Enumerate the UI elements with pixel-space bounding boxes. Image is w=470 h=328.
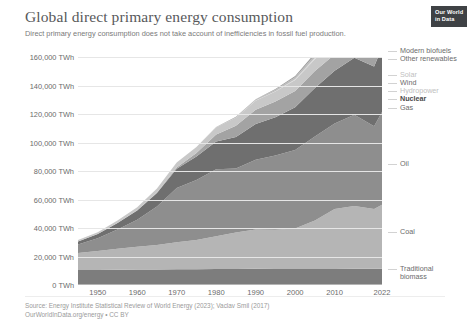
- legend-leader-line: [388, 75, 397, 76]
- area-traditional-biomass: [78, 269, 382, 285]
- series-legend: Modern biofuelsOther renewablesSolarWind…: [400, 40, 470, 290]
- y-axis-tick-label: 60,000 TWh: [34, 195, 74, 204]
- x-axis-labels: 19501960197019801990200020102022: [78, 288, 382, 300]
- chart-title: Global direct primary energy consumption: [25, 8, 425, 26]
- legend-leader-line: [388, 108, 397, 109]
- y-axis-tick-label: 80,000 TWh: [34, 167, 74, 176]
- y-axis-tick-label: 100,000 TWh: [30, 138, 74, 147]
- legend-item-coal[interactable]: Coal: [400, 228, 415, 236]
- owid-logo[interactable]: Our World in Data: [431, 6, 467, 27]
- legend-item-traditional-biomass[interactable]: Traditional biomass: [400, 265, 460, 281]
- gridline: [78, 200, 382, 201]
- legend-item-gas[interactable]: Gas: [400, 104, 413, 112]
- owid-logo-line2: in Data: [435, 16, 464, 23]
- y-axis-labels: 160,000 TWh140,000 TWh120,000 TWh100,000…: [0, 57, 76, 286]
- legend-leader-line: [388, 91, 397, 92]
- chart-header: Global direct primary energy consumption…: [25, 8, 425, 38]
- y-axis-tick-label: 120,000 TWh: [30, 110, 74, 119]
- y-axis-tick-label: 40,000 TWh: [34, 224, 74, 233]
- legend-leader-line: [388, 83, 397, 84]
- gridline: [78, 257, 382, 258]
- legend-leader-line: [388, 164, 397, 165]
- legend-item-nuclear[interactable]: Nuclear: [400, 95, 426, 103]
- legend-leader-line: [388, 51, 397, 52]
- y-axis-tick-label: 20,000 TWh: [34, 252, 74, 261]
- gridline: [78, 57, 382, 58]
- chart-subtitle: Direct primary energy consumption does n…: [25, 29, 425, 38]
- license-text[interactable]: OurWorldInData.org/energy • CC BY: [25, 311, 445, 319]
- legend-leader-line: [388, 269, 397, 270]
- owid-logo-line1: Our World: [435, 9, 464, 16]
- legend-leader-line: [388, 232, 397, 233]
- y-axis-tick-label: 140,000 TWh: [30, 81, 74, 90]
- y-axis-tick-label: 160,000 TWh: [30, 53, 74, 62]
- gridline: [78, 228, 382, 229]
- gridline: [78, 114, 382, 115]
- legend-leader-line: [388, 59, 397, 60]
- legend-leader-line: [388, 99, 397, 100]
- source-text: Source: Energy Institute Statistical Rev…: [25, 302, 445, 310]
- y-axis-tick-label: 0 TWh: [52, 281, 74, 290]
- chart-card: Global direct primary energy consumption…: [0, 0, 470, 328]
- chart-footer: Source: Energy Institute Statistical Rev…: [25, 302, 445, 319]
- legend-item-other-renewables[interactable]: Other renewables: [400, 55, 460, 63]
- footer-divider: [25, 296, 445, 297]
- legend-item-oil[interactable]: Oil: [400, 160, 409, 168]
- gridline: [78, 86, 382, 87]
- gridline: [78, 143, 382, 144]
- gridline: [78, 171, 382, 172]
- plot-area: [78, 57, 382, 285]
- axis-baseline: [78, 284, 382, 285]
